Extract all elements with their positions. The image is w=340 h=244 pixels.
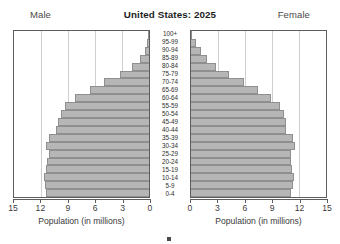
age-group-label: 45-49	[150, 118, 190, 126]
male-bar	[75, 94, 149, 102]
pyramid-row	[191, 165, 326, 173]
male-bar	[90, 86, 149, 94]
female-bar	[191, 165, 292, 173]
female-bar	[191, 63, 216, 71]
age-group-label: 90-94	[150, 46, 190, 54]
male-bar	[65, 102, 149, 110]
female-bar-rows	[191, 31, 326, 197]
age-group-label: 55-59	[150, 102, 190, 110]
axis-tick-label: 6	[93, 203, 98, 213]
male-axis-line	[13, 199, 150, 200]
pyramid-row	[191, 78, 326, 86]
pyramid-row	[14, 165, 149, 173]
pyramid-row	[14, 86, 149, 94]
male-bar	[46, 189, 149, 197]
pyramid-row	[191, 158, 326, 166]
pyramid-row	[14, 102, 149, 110]
legend	[0, 236, 340, 244]
pyramid-row	[14, 55, 149, 63]
pyramid-row	[14, 158, 149, 166]
female-bar	[191, 55, 207, 63]
female-bar	[191, 189, 291, 197]
male-bar	[45, 181, 149, 189]
axis-tick-label: 12	[295, 203, 305, 213]
male-bar	[49, 150, 149, 158]
male-bar	[140, 55, 149, 63]
pyramid-row	[191, 126, 326, 134]
age-group-label: 35-39	[150, 134, 190, 142]
female-bar	[191, 110, 284, 118]
female-bar	[191, 102, 280, 110]
pyramid-row	[191, 118, 326, 126]
axis-tick-label: 9	[65, 203, 70, 213]
pyramid-row	[14, 31, 149, 39]
pyramid-row	[191, 150, 326, 158]
pyramid-row	[191, 134, 326, 142]
male-bar	[120, 71, 149, 79]
axis-tick-label: 0	[148, 203, 153, 213]
age-group-label: 95-99	[150, 38, 190, 46]
age-group-label: 75-79	[150, 70, 190, 78]
axis-tick-label: 3	[120, 203, 125, 213]
age-group-axis: 100+95-9990-9485-8980-8475-7970-7465-696…	[150, 30, 190, 198]
male-plot-panel	[13, 30, 150, 198]
female-bar	[191, 181, 293, 189]
female-axis-title: Population (in millions)	[190, 216, 327, 226]
pyramid-row	[14, 118, 149, 126]
female-bar	[191, 86, 258, 94]
age-group-label: 80-84	[150, 62, 190, 70]
female-bar	[191, 158, 291, 166]
age-group-label: 5-9	[150, 182, 190, 190]
chart-header: Male United States: 2025 Female	[0, 9, 340, 23]
age-group-label: 25-29	[150, 150, 190, 158]
female-bar	[191, 150, 291, 158]
pyramid-row	[14, 142, 149, 150]
pyramid-row	[14, 47, 149, 55]
pyramid-row	[191, 71, 326, 79]
axis-tick-label: 3	[215, 203, 220, 213]
axis-tick-label: 15	[322, 203, 332, 213]
male-bar	[58, 118, 149, 126]
male-bar	[49, 134, 149, 142]
female-bar	[191, 134, 293, 142]
pyramid-row	[14, 181, 149, 189]
age-group-label: 60-64	[150, 94, 190, 102]
male-bar	[61, 110, 149, 118]
pyramid-row	[14, 78, 149, 86]
female-plot-panel	[190, 30, 327, 198]
female-bar	[191, 71, 229, 79]
female-bar	[191, 78, 244, 86]
age-group-label: 10-14	[150, 174, 190, 182]
age-group-label: 40-44	[150, 126, 190, 134]
pyramid-row	[14, 134, 149, 142]
female-bar	[191, 142, 295, 150]
pyramid-row	[191, 94, 326, 102]
male-bar	[44, 173, 149, 181]
pyramid-row	[191, 86, 326, 94]
female-bar	[191, 173, 294, 181]
female-side-label: Female	[278, 9, 310, 20]
male-axis-title: Population (in millions)	[13, 216, 150, 226]
age-group-label: 65-69	[150, 86, 190, 94]
male-bar	[132, 63, 149, 71]
pyramid-row	[14, 110, 149, 118]
female-bar	[191, 47, 201, 55]
female-bar	[191, 118, 286, 126]
axis-tick-label: 12	[36, 203, 46, 213]
pyramid-row	[14, 189, 149, 197]
male-x-axis: 15129630	[13, 199, 150, 211]
male-bar	[104, 78, 149, 86]
male-bar	[46, 142, 150, 150]
pyramid-row	[14, 173, 149, 181]
pyramid-row	[14, 94, 149, 102]
male-bar	[56, 126, 149, 134]
pyramid-row	[14, 126, 149, 134]
age-group-label: 50-54	[150, 110, 190, 118]
male-bar	[46, 165, 150, 173]
pyramid-row	[14, 71, 149, 79]
pyramid-row	[191, 142, 326, 150]
pyramid-row	[14, 63, 149, 71]
female-x-axis: 03691215	[190, 199, 327, 211]
female-axis-line	[190, 199, 327, 200]
male-bar	[47, 158, 149, 166]
